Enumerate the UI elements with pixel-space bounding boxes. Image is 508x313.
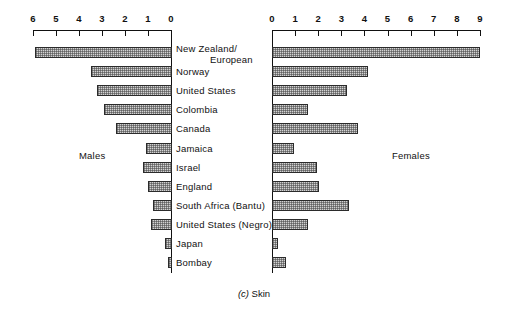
right-axis-rule bbox=[272, 30, 481, 31]
caption-marker: (c) bbox=[238, 288, 249, 299]
left-axis-tick-3: 3 bbox=[95, 14, 109, 24]
left-axis-tickmark-3 bbox=[102, 30, 103, 36]
caption-text: Skin bbox=[252, 288, 270, 299]
right-axis-tick-3: 3 bbox=[334, 14, 348, 24]
right-axis-tickmark-8 bbox=[457, 30, 458, 36]
bar-males-united-states bbox=[97, 85, 172, 96]
category-label-line: New Zealand/ bbox=[176, 44, 253, 55]
bar-females-england bbox=[272, 181, 319, 192]
category-label-line: European bbox=[176, 55, 253, 66]
left-axis-tick-1: 1 bbox=[141, 14, 155, 24]
right-axis-tickmark-7 bbox=[434, 30, 435, 36]
bar-males-england bbox=[148, 181, 172, 192]
bar-males-united-states-negro bbox=[151, 219, 172, 230]
figure-skin-cancer-incidence: 6543210 0123456789 New Zealand/EuropeanN… bbox=[0, 0, 508, 313]
bar-females-south-africa-bantu bbox=[272, 200, 349, 211]
bar-males-japan bbox=[165, 238, 172, 249]
bar-females-united-states-negro bbox=[272, 219, 308, 230]
category-label-canada: Canada bbox=[176, 124, 210, 135]
right-axis-tick-8: 8 bbox=[450, 14, 464, 24]
right-axis-tick-7: 7 bbox=[427, 14, 441, 24]
left-axis-tickmark-6 bbox=[33, 30, 34, 36]
category-label-line: South Africa (Bantu) bbox=[176, 201, 265, 212]
category-label-line: Canada bbox=[176, 124, 210, 135]
bar-males-norway bbox=[91, 66, 173, 77]
right-axis-tickmark-6 bbox=[411, 30, 412, 36]
category-label-jamaica: Jamaica bbox=[176, 144, 213, 155]
category-label-england: England bbox=[176, 182, 212, 193]
right-axis-tick-9: 9 bbox=[473, 14, 487, 24]
females-panel-label: Females bbox=[392, 150, 430, 161]
category-label-line: Japan bbox=[176, 239, 203, 250]
right-axis-tick-5: 5 bbox=[381, 14, 395, 24]
left-axis-tick-5: 5 bbox=[49, 14, 63, 24]
category-label-israel: Israel bbox=[176, 163, 200, 174]
bar-females-norway bbox=[272, 66, 368, 77]
right-axis-tickmark-1 bbox=[295, 30, 296, 36]
left-axis-tickmark-4 bbox=[79, 30, 80, 36]
category-label-bombay: Bombay bbox=[176, 258, 212, 269]
category-label-line: Israel bbox=[176, 163, 200, 174]
bar-females-united-states bbox=[272, 85, 347, 96]
category-label-line: Colombia bbox=[176, 105, 218, 116]
bar-males-jamaica bbox=[146, 143, 172, 154]
right-axis-tick-2: 2 bbox=[311, 14, 325, 24]
right-axis-tickmark-9 bbox=[480, 30, 481, 36]
category-label-line: Jamaica bbox=[176, 144, 213, 155]
left-axis-tickmark-5 bbox=[56, 30, 57, 36]
bar-females-colombia bbox=[272, 104, 308, 115]
right-axis-tick-4: 4 bbox=[357, 14, 371, 24]
right-axis-tick-1: 1 bbox=[288, 14, 302, 24]
bar-females-new-zealand-european bbox=[272, 47, 480, 58]
bar-females-canada bbox=[272, 123, 358, 134]
bar-females-bombay bbox=[272, 257, 286, 268]
bar-males-south-africa-bantu bbox=[153, 200, 172, 211]
category-label-colombia: Colombia bbox=[176, 105, 218, 116]
category-label-new-zealand-european: New Zealand/European bbox=[176, 44, 253, 65]
category-label-line: Norway bbox=[176, 67, 209, 78]
right-axis-tick-0: 0 bbox=[265, 14, 279, 24]
bar-males-colombia bbox=[104, 104, 172, 115]
left-axis-tick-4: 4 bbox=[72, 14, 86, 24]
bar-females-jamaica bbox=[272, 143, 294, 154]
category-label-united-states: United States bbox=[176, 86, 236, 97]
right-axis-tickmark-4 bbox=[364, 30, 365, 36]
bar-females-israel bbox=[272, 162, 317, 173]
right-axis-tickmark-5 bbox=[388, 30, 389, 36]
bar-males-new-zealand-european bbox=[35, 47, 172, 58]
left-axis-tickmark-2 bbox=[125, 30, 126, 36]
figure-caption: (c) Skin bbox=[0, 288, 508, 299]
right-axis-tick-6: 6 bbox=[404, 14, 418, 24]
left-axis-tickmark-1 bbox=[148, 30, 149, 36]
right-axis-tickmark-2 bbox=[318, 30, 319, 36]
right-axis-tickmark-3 bbox=[341, 30, 342, 36]
bar-males-israel bbox=[143, 162, 172, 173]
bar-females-japan bbox=[272, 238, 278, 249]
category-label-line: Bombay bbox=[176, 258, 212, 269]
category-label-norway: Norway bbox=[176, 67, 209, 78]
category-label-south-africa-bantu: South Africa (Bantu) bbox=[176, 201, 265, 212]
bar-males-bombay bbox=[168, 257, 172, 268]
left-axis-tick-2: 2 bbox=[118, 14, 132, 24]
category-label-line: United States (Negro) bbox=[176, 220, 272, 231]
category-label-japan: Japan bbox=[176, 239, 203, 250]
left-axis-tick-0: 0 bbox=[164, 14, 178, 24]
category-label-line: England bbox=[176, 182, 212, 193]
left-axis-tick-6: 6 bbox=[26, 14, 40, 24]
category-label-united-states-negro: United States (Negro) bbox=[176, 220, 272, 231]
males-panel-label: Males bbox=[79, 150, 105, 161]
category-label-line: United States bbox=[176, 86, 236, 97]
bar-males-canada bbox=[116, 123, 172, 134]
